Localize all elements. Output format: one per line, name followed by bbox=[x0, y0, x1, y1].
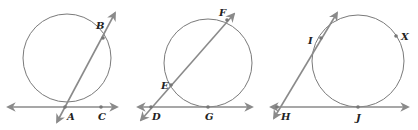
point-label-c: C bbox=[98, 111, 106, 122]
point-label-d: D bbox=[151, 111, 161, 122]
point-f bbox=[225, 18, 229, 22]
circle bbox=[312, 15, 404, 107]
point-label-j: J bbox=[354, 112, 362, 123]
point-label-x: X bbox=[400, 31, 410, 42]
point-a bbox=[63, 105, 67, 109]
secant-line-DF bbox=[141, 14, 234, 120]
point-label-e: E bbox=[160, 80, 169, 91]
circle bbox=[164, 19, 252, 107]
geometry-diagram: BACFEDGIXHJ bbox=[0, 0, 418, 130]
point-label-i: I bbox=[307, 35, 313, 46]
panel-3: IXHJ bbox=[271, 13, 410, 123]
point-h bbox=[275, 105, 279, 109]
point-label-b: B bbox=[95, 20, 104, 31]
point-e bbox=[169, 83, 173, 87]
point-j bbox=[356, 105, 360, 109]
point-x bbox=[394, 34, 398, 38]
panel-2: FEDG bbox=[138, 7, 252, 122]
point-label-f: F bbox=[218, 7, 227, 18]
tangent-line-HI bbox=[274, 13, 337, 118]
point-label-h: H bbox=[280, 111, 291, 122]
point-c bbox=[99, 105, 103, 109]
point-label-g: G bbox=[205, 111, 214, 122]
point-g bbox=[206, 105, 210, 109]
point-d bbox=[149, 105, 153, 109]
point-b bbox=[101, 36, 105, 40]
panel-1: BAC bbox=[8, 13, 117, 122]
point-label-a: A bbox=[66, 111, 75, 122]
point-i bbox=[319, 36, 323, 40]
